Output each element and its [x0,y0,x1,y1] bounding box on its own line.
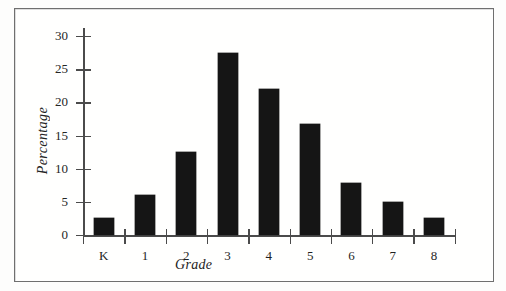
x-axis-category-label: 5 [290,248,331,263]
bar [94,218,114,235]
x-axis-tick [124,229,125,244]
x-axis-tick [83,229,84,244]
x-axis-category-label: 6 [331,248,372,263]
y-axis-tick: 5 [76,202,91,203]
x-axis-tick [166,229,167,244]
x-axis-line [83,235,455,237]
x-axis-tick [248,229,249,244]
y-axis-tick: 10 [76,169,91,170]
y-axis-tick: 20 [76,102,91,103]
plot-area: 051015202530 K12345678 [83,36,506,235]
bar [259,89,279,235]
y-axis-tick-label: 15 [55,128,68,143]
bar [424,218,444,235]
bar [218,53,238,235]
x-axis-category-label: 4 [248,248,289,263]
y-axis-tick-label: 0 [62,227,69,242]
y-axis-tick-label: 30 [55,28,68,43]
x-axis-tick [413,229,414,244]
figure-page: Percentage Grade 051015202530 K12345678 [0,0,506,291]
bar [135,195,155,235]
x-axis-tick [372,229,373,244]
y-axis-line [83,28,85,235]
x-axis-category-label: K [83,248,124,263]
x-axis-tick [331,229,332,244]
y-axis-tick-label: 25 [55,61,68,76]
y-axis-tick: 30 [76,36,91,37]
bar [176,152,196,235]
x-axis-tick [290,229,291,244]
x-axis-tick [207,229,208,244]
x-axis-category-label: 7 [372,248,413,263]
y-axis-tick: 25 [76,69,91,70]
figure-frame: Percentage Grade 051015202530 K12345678 [14,8,494,282]
bar [341,183,361,235]
y-axis-title: Percentage [35,107,51,174]
y-axis-tick-label: 5 [62,194,69,209]
x-axis-category-label: 2 [166,248,207,263]
x-axis-category-label: 3 [207,248,248,263]
bar [383,202,403,235]
y-axis-tick: 15 [76,136,91,137]
y-axis-tick-label: 10 [55,161,68,176]
x-axis-tick [455,229,456,244]
y-axis-tick-label: 20 [55,94,68,109]
x-axis-category-label: 1 [124,248,165,263]
bar [300,124,320,235]
x-axis-category-label: 8 [413,248,454,263]
